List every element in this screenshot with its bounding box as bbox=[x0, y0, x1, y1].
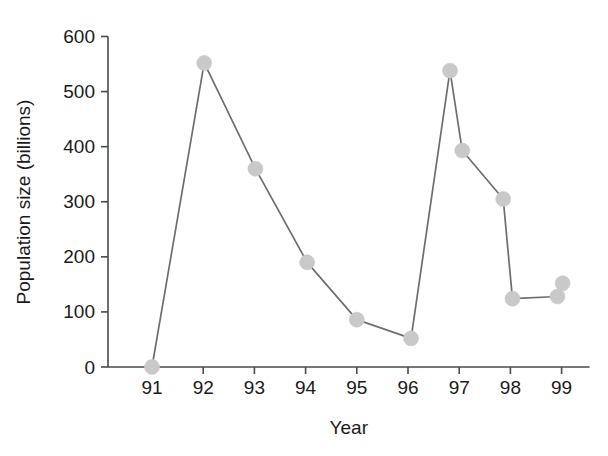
y-axis-tick-label: 0 bbox=[84, 357, 95, 378]
x-axis-tick-label: 95 bbox=[346, 377, 367, 398]
x-axis-tick-marks bbox=[152, 367, 562, 374]
x-axis-tick-label: 99 bbox=[551, 377, 572, 398]
data-point-marker bbox=[248, 161, 263, 176]
data-point-marker bbox=[550, 289, 565, 304]
data-point-marker bbox=[442, 63, 457, 78]
x-axis-title: Year bbox=[330, 417, 369, 438]
chart-figure: 0100200300400500600 919293949596979899 Y… bbox=[0, 0, 608, 456]
line-chart-canvas: 0100200300400500600 919293949596979899 Y… bbox=[0, 0, 608, 456]
y-axis-tick-label: 400 bbox=[63, 136, 95, 157]
y-axis-tick-label: 500 bbox=[63, 81, 95, 102]
data-point-marker bbox=[555, 276, 570, 291]
x-axis-tick-label: 92 bbox=[193, 377, 214, 398]
data-point-marker bbox=[197, 55, 212, 70]
data-point-marker bbox=[455, 143, 470, 158]
y-axis-title: Population size (billions) bbox=[13, 100, 34, 305]
data-point-marker bbox=[404, 331, 419, 346]
y-axis-tick-label: 100 bbox=[63, 301, 95, 322]
x-axis-tick-label: 94 bbox=[295, 377, 317, 398]
data-point-marker bbox=[145, 360, 160, 375]
x-axis-tick-label: 96 bbox=[397, 377, 418, 398]
data-point-marker bbox=[349, 312, 364, 327]
x-axis-tick-labels: 919293949596979899 bbox=[141, 377, 572, 398]
y-axis-tick-labels: 0100200300400500600 bbox=[63, 26, 95, 378]
x-axis-tick-label: 97 bbox=[449, 377, 470, 398]
y-axis-tick-label: 300 bbox=[63, 191, 95, 212]
y-axis-tick-label: 600 bbox=[63, 26, 95, 47]
x-axis-tick-label: 93 bbox=[244, 377, 265, 398]
y-axis-tick-label: 200 bbox=[63, 246, 95, 267]
x-axis-tick-label: 91 bbox=[141, 377, 162, 398]
data-point-marker bbox=[496, 192, 511, 207]
x-axis-tick-label: 98 bbox=[500, 377, 521, 398]
data-series-markers bbox=[145, 55, 571, 374]
data-point-marker bbox=[300, 255, 315, 270]
data-point-marker bbox=[505, 291, 520, 306]
y-axis-tick-marks bbox=[101, 37, 108, 368]
